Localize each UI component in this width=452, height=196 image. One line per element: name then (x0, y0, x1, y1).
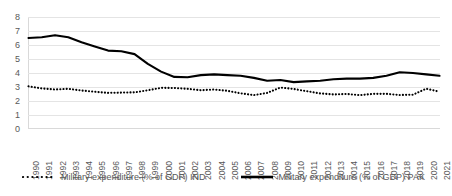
chart-legend: Military expenditure (% of GDP) IND Mili… (0, 172, 447, 182)
y-tick-label: 0 (15, 125, 20, 134)
x-axis-tick-labels: 1990199119921993199419951996199719981999… (28, 131, 440, 163)
legend-entry-pak: Military expenditure (% of GDP) PAK (240, 172, 425, 182)
y-tick-label: 8 (15, 13, 20, 22)
series-lines (28, 17, 440, 129)
legend-label-pak: Military expenditure (% of GDP) PAK (279, 172, 425, 182)
y-tick-label: 4 (15, 69, 20, 78)
legend-entry-ind: Military expenditure (% of GDP) IND (22, 172, 206, 182)
y-tick-label: 5 (15, 55, 20, 64)
legend-swatch-dotted-icon (22, 172, 56, 182)
y-axis-tick-labels: 012345678 (0, 17, 24, 129)
y-tick-label: 3 (15, 83, 20, 92)
y-tick-label: 1 (15, 111, 20, 120)
legend-swatch-solid-icon (240, 172, 274, 182)
plot-area (28, 17, 440, 129)
y-tick-label: 7 (15, 27, 20, 36)
series-line-ind (29, 86, 440, 95)
series-line-pak (29, 35, 440, 82)
y-tick-label: 6 (15, 41, 20, 50)
y-tick-label: 2 (15, 97, 20, 106)
legend-label-ind: Military expenditure (% of GDP) IND (61, 172, 206, 182)
